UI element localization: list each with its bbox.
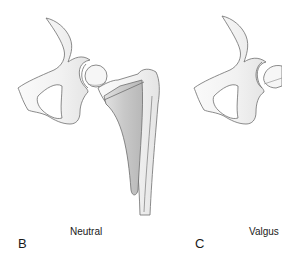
caption-neutral: Neutral — [70, 226, 102, 237]
femur-left — [85, 65, 159, 215]
pelvis-right — [194, 16, 266, 124]
femoral-head-right — [264, 65, 282, 88]
illustration-canvas — [0, 0, 282, 255]
caption-valgus: Valgus — [249, 226, 279, 237]
pelvis-left — [18, 18, 90, 124]
panel-letter-b: B — [18, 236, 27, 251]
panel-letter-c: C — [195, 236, 204, 251]
hip-prosthesis-figure: Neutral B Valgus C — [0, 0, 282, 255]
